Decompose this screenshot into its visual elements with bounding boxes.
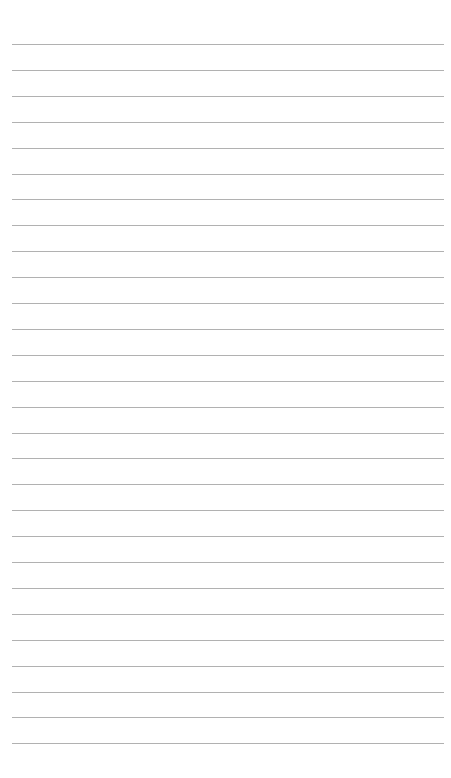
- ruled-line: [12, 44, 444, 45]
- ruled-line: [12, 225, 444, 226]
- ruled-line: [12, 588, 444, 589]
- ruled-line: [12, 251, 444, 252]
- ruled-line: [12, 562, 444, 563]
- ruled-line: [12, 614, 444, 615]
- ruled-line: [12, 355, 444, 356]
- ruled-line: [12, 743, 444, 744]
- ruled-line: [12, 640, 444, 641]
- ruled-line: [12, 510, 444, 511]
- ruled-line: [12, 536, 444, 537]
- ruled-line: [12, 717, 444, 718]
- ruled-line: [12, 148, 444, 149]
- ruled-line: [12, 666, 444, 667]
- ruled-line: [12, 96, 444, 97]
- ruled-line: [12, 199, 444, 200]
- lined-paper-sheet: [0, 0, 451, 778]
- ruled-line: [12, 458, 444, 459]
- ruled-line: [12, 303, 444, 304]
- ruled-line: [12, 484, 444, 485]
- ruled-line: [12, 174, 444, 175]
- ruled-line: [12, 277, 444, 278]
- ruled-line: [12, 70, 444, 71]
- ruled-line: [12, 692, 444, 693]
- ruled-line: [12, 407, 444, 408]
- ruled-line: [12, 329, 444, 330]
- ruled-line: [12, 433, 444, 434]
- ruled-line: [12, 122, 444, 123]
- ruled-line: [12, 381, 444, 382]
